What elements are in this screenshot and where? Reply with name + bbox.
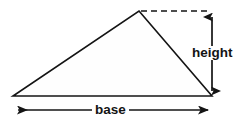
- triangle-shape: [13, 11, 212, 96]
- triangle-diagram: base height: [0, 0, 245, 128]
- base-label: base: [92, 103, 129, 117]
- height-label: height: [189, 46, 236, 60]
